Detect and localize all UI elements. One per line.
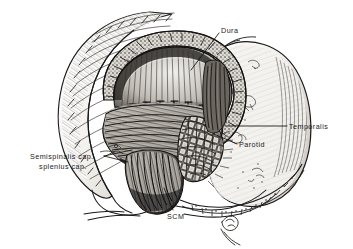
- label-semispinalis-splenius: Semispinalis cap., splenius cap.: [21, 152, 105, 171]
- label-scm: SCM: [167, 212, 184, 221]
- label-semispinalis-line2: splenius cap.: [21, 162, 105, 172]
- label-semispinalis-line1: Semispinalis cap.,: [21, 152, 105, 162]
- surgical-illustration: Dura Temporalis Parotid Semispinalis cap…: [0, 0, 353, 249]
- label-dura: Dura: [221, 26, 238, 35]
- label-temporalis: Temporalis: [289, 122, 328, 131]
- temporalis-muscle: [203, 60, 230, 133]
- label-parotid: Parotid: [239, 140, 265, 149]
